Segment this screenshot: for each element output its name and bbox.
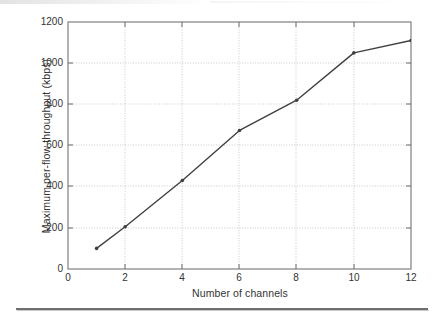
x-tick-0: 0 (53, 272, 83, 283)
x-tick-10: 10 (339, 272, 369, 283)
x-tick-2: 2 (110, 272, 140, 283)
data-point-4 (181, 179, 185, 183)
x-axis-tick-labels: 0 2 4 6 8 10 12 (0, 272, 439, 288)
x-tick-6: 6 (224, 272, 254, 283)
line-chart-plot (0, 0, 439, 300)
x-axis-label: Number of channels (68, 287, 412, 299)
data-point-markers (95, 39, 413, 251)
y-axis-ticks (68, 63, 411, 228)
data-point-2 (123, 225, 127, 229)
y-axis-label: Maximum per-flow throughput (kbps) (40, 21, 52, 271)
data-point-1 (95, 247, 99, 251)
data-point-10 (352, 51, 356, 55)
vertical-gridlines (125, 22, 354, 269)
x-tick-8: 8 (281, 272, 311, 283)
data-point-12 (409, 39, 413, 43)
x-tick-4: 4 (167, 272, 197, 283)
data-point-6 (238, 129, 242, 133)
data-series-line (97, 41, 411, 249)
data-point-8 (295, 98, 299, 102)
x-axis-ticks (125, 22, 354, 269)
x-tick-12: 12 (396, 272, 426, 283)
horizontal-gridlines (68, 63, 411, 228)
page-separator-rule-shadow (17, 310, 429, 311)
chart-figure: 1200 1000 800 600 400 200 0 0 2 4 6 8 10… (0, 0, 439, 300)
